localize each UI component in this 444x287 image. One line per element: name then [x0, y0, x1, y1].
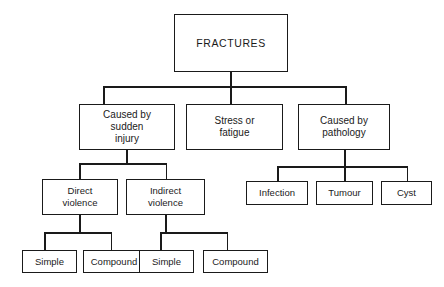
node-direct-compound-label: Compound [88, 256, 140, 268]
node-indirect-simple: Simple [139, 250, 194, 273]
node-stress-or-fatigue-label: Stress or fatigue [211, 115, 257, 139]
connector-root-to-pathology [345, 86, 347, 104]
node-direct-compound: Compound [83, 250, 145, 273]
node-indirect-compound-label: Compound [209, 256, 261, 268]
connector-pathology-stem [344, 150, 346, 166]
connector-indirect-to-compound [227, 232, 229, 250]
node-indirect-compound: Compound [203, 250, 268, 273]
node-fractures-label: FRACTURES [193, 37, 269, 50]
connector-indirect-to-simple [160, 232, 162, 250]
connector-direct-to-simple [44, 232, 46, 250]
node-stress-or-fatigue: Stress or fatigue [186, 104, 283, 150]
node-caused-by-pathology-label: Caused by pathology [317, 115, 371, 139]
node-direct-violence-label: Direct violence [60, 185, 101, 208]
connector-root-to-stress-fatigue [230, 86, 232, 104]
node-caused-by-sudden-injury-label: Caused by sudden injury [100, 109, 154, 146]
node-infection: Infection [246, 181, 308, 205]
node-indirect-violence-label: Indirect violence [145, 185, 186, 208]
connector-root-bus [103, 86, 346, 88]
connector-root-to-sudden-injury [103, 86, 105, 104]
node-cyst-label: Cyst [394, 187, 419, 199]
connector-pathology-to-tumour [344, 166, 346, 181]
node-fractures: FRACTURES [174, 14, 288, 72]
fractures-classification-diagram: FRACTURES Caused by sudden injury Stress… [0, 0, 444, 287]
connector-root-stem [230, 72, 232, 86]
connector-indirect-violence-stem [165, 215, 167, 232]
node-cyst: Cyst [381, 181, 432, 205]
connector-sudden-injury-bus [79, 163, 167, 165]
connector-direct-violence-bus [44, 232, 112, 234]
connector-sudden-injury-to-indirect [166, 163, 168, 179]
connector-pathology-bus [277, 166, 408, 168]
connector-sudden-injury-to-direct [79, 163, 81, 179]
connector-pathology-to-cyst [407, 166, 409, 181]
node-caused-by-pathology: Caused by pathology [298, 104, 390, 150]
node-indirect-simple-label: Simple [149, 256, 184, 268]
node-indirect-violence: Indirect violence [126, 179, 205, 215]
node-direct-simple-label: Simple [32, 256, 67, 268]
connector-direct-violence-stem [79, 215, 81, 232]
connector-sudden-injury-stem [126, 150, 128, 163]
node-caused-by-sudden-injury: Caused by sudden injury [79, 104, 175, 150]
node-tumour-label: Tumour [325, 187, 363, 199]
connector-indirect-violence-bus [160, 232, 228, 234]
node-infection-label: Infection [256, 187, 298, 199]
connector-pathology-to-infection [277, 166, 279, 181]
node-direct-violence: Direct violence [42, 179, 118, 215]
node-direct-simple: Simple [22, 250, 77, 273]
node-tumour: Tumour [316, 181, 373, 205]
connector-direct-to-compound [111, 232, 113, 250]
